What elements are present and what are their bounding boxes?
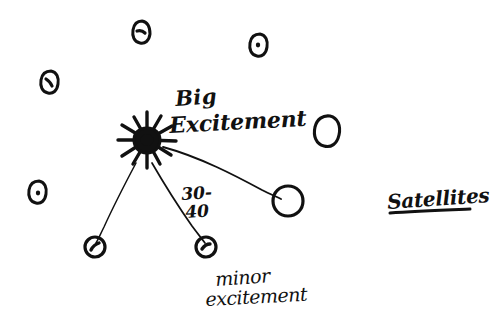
big-label-line1: Big [174,83,218,111]
node-top-mid-dot [137,31,145,33]
node-lower-left-dot [91,243,99,250]
node-top-right-dot [256,43,260,48]
node-right [273,186,303,216]
starburst-hub [118,112,176,168]
starburst-core [141,134,154,146]
node-lower-mid-dot [202,244,210,249]
node-left-upper-dot [46,79,52,86]
sketch-canvas: Big Excitement 30- 40 minor excitement S… [0,0,494,330]
node-left-lower-dot [36,191,40,196]
node-right-upper [314,116,339,147]
link-hub-lower-left [96,163,136,243]
range-label-line2: 40 [185,200,210,222]
